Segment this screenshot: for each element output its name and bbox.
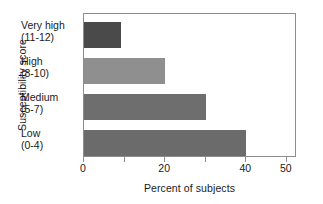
category-label-line2: (5-7) — [21, 104, 83, 116]
category-label-very-high: Very high (11-12) — [21, 20, 83, 43]
category-label-line1: Medium — [21, 92, 83, 104]
bar-medium — [84, 94, 206, 120]
category-label-line1: Low — [21, 128, 83, 140]
bar-low — [84, 130, 246, 156]
category-label-line1: Very high — [21, 20, 83, 32]
category-label-high: High (8-10) — [21, 56, 83, 79]
x-tick-30 — [205, 157, 206, 162]
bar-chart-figure: Susceptibility score Very high (11-12) H… — [0, 0, 323, 204]
x-tick-label-40: 40 — [230, 162, 260, 175]
x-tick-label-20: 20 — [149, 162, 179, 175]
bar-high — [84, 58, 165, 84]
x-tick-label-50: 50 — [271, 162, 301, 175]
category-label-medium: Medium (5-7) — [21, 92, 83, 115]
x-axis-title: Percent of subjects — [83, 181, 296, 195]
category-label-line2: (0-4) — [21, 140, 83, 152]
category-label-line1: High — [21, 56, 83, 68]
plot-area — [83, 13, 296, 157]
x-tick-label-0: 0 — [68, 162, 98, 175]
category-label-line2: (11-12) — [21, 32, 83, 44]
x-tick-10 — [124, 157, 125, 162]
category-label-line2: (8-10) — [21, 68, 83, 80]
bar-very-high — [84, 22, 121, 48]
category-label-low: Low (0-4) — [21, 128, 83, 151]
